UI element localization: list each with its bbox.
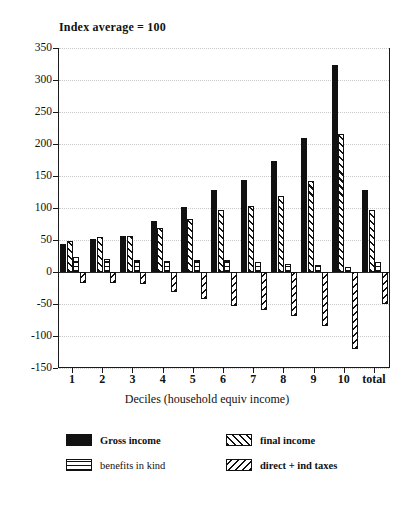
y-axis-tick-mark [53, 368, 58, 369]
bar [352, 272, 358, 349]
bar [90, 239, 96, 272]
bar [241, 180, 247, 272]
bar [157, 228, 163, 272]
bar [369, 210, 375, 272]
bar [187, 219, 193, 272]
x-axis-tick-label: 10 [338, 372, 350, 387]
bar [140, 272, 146, 284]
y-axis-tick-mark [53, 336, 58, 337]
bar [67, 241, 73, 272]
bar [285, 264, 291, 272]
bar [231, 272, 237, 306]
bar [151, 221, 157, 272]
bar [322, 272, 328, 326]
y-axis-tick-mark [53, 176, 58, 177]
chart-figure: Index average = 100 35030025020015010050… [0, 0, 414, 505]
legend-swatch [226, 459, 252, 471]
legend-label: final income [260, 435, 315, 446]
bar [315, 265, 321, 272]
bar-group [120, 48, 146, 367]
x-axis-tick-label: 5 [190, 372, 196, 387]
legend-swatch [66, 459, 92, 471]
y-axis-tick-label: 150 [12, 169, 52, 181]
bar [248, 206, 254, 272]
bar [255, 262, 261, 272]
y-axis-tick-label: 0 [12, 265, 52, 277]
bar [104, 259, 110, 272]
bar [301, 138, 307, 272]
y-axis-tick-label: 300 [12, 73, 52, 85]
bar [110, 272, 116, 283]
bar [171, 272, 177, 292]
bar [80, 272, 86, 283]
bar [60, 244, 66, 272]
bar-group [332, 48, 358, 367]
y-axis-tick-mark [53, 112, 58, 113]
legend-entry: direct + ind taxes [226, 459, 396, 471]
bar [164, 261, 170, 272]
x-axis-tick-label: 3 [129, 372, 135, 387]
bar [194, 260, 200, 272]
x-axis-tick-label: 9 [311, 372, 317, 387]
y-axis-tick-mark [53, 240, 58, 241]
legend-label: direct + ind taxes [260, 460, 337, 471]
legend-entry: Gross income [66, 434, 226, 446]
bar [218, 210, 224, 272]
bar [211, 190, 217, 272]
bar-group [301, 48, 327, 367]
gridline [59, 368, 389, 369]
y-axis-tick-mark [53, 272, 58, 273]
bar-group [362, 48, 388, 367]
legend-label: benefits in kind [100, 460, 165, 471]
bar [134, 260, 140, 272]
bar [261, 272, 267, 310]
plot-area [58, 48, 390, 368]
x-axis-tick-label: 7 [250, 372, 256, 387]
legend-entry: final income [226, 434, 396, 446]
bar [181, 207, 187, 272]
bar-group [211, 48, 237, 367]
bar [291, 272, 297, 316]
x-axis-tick-label: 4 [160, 372, 166, 387]
bar-group [90, 48, 116, 367]
x-axis-tick-label: 8 [280, 372, 286, 387]
y-axis-tick-mark [53, 80, 58, 81]
bar [375, 262, 381, 272]
x-axis-title: Deciles (household equiv income) [0, 392, 414, 407]
legend-entry: benefits in kind [66, 459, 226, 471]
bar [127, 236, 133, 272]
y-axis-tick-label: -50 [12, 297, 52, 309]
bar [382, 272, 388, 304]
bar-group [241, 48, 267, 367]
x-axis-tick-label: total [362, 372, 385, 387]
y-axis-tick-mark [53, 304, 58, 305]
y-axis-tick-label: 350 [12, 41, 52, 53]
legend-label: Gross income [100, 435, 161, 446]
y-axis-tick-mark [53, 144, 58, 145]
y-axis-tick-label: -150 [12, 361, 52, 373]
bar [278, 196, 284, 272]
chart-legend: Gross incomefinal incomebenefits in kind… [66, 434, 396, 471]
y-axis-tick-mark [53, 208, 58, 209]
y-axis-tick-label: 50 [12, 233, 52, 245]
y-axis-tick-mark [53, 48, 58, 49]
bar [97, 237, 103, 272]
y-axis-tick-label: 100 [12, 201, 52, 213]
bar [271, 161, 277, 272]
legend-swatch [66, 434, 92, 446]
x-axis-tick-label: 6 [220, 372, 226, 387]
bar [345, 267, 351, 272]
y-axis-tick-label: 200 [12, 137, 52, 149]
bar [120, 236, 126, 272]
legend-swatch [226, 434, 252, 446]
bar [332, 65, 338, 272]
bar [73, 257, 79, 272]
chart-title: Index average = 100 [59, 20, 166, 35]
bar [201, 272, 207, 299]
y-axis-tick-label: 250 [12, 105, 52, 117]
bar-group [271, 48, 297, 367]
bar [308, 181, 314, 272]
y-axis-tick-label: -100 [12, 329, 52, 341]
plot-inner [59, 48, 389, 367]
x-axis-tick-label: 1 [69, 372, 75, 387]
